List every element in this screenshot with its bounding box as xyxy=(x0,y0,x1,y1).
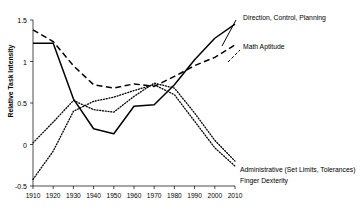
y-tick-label: 0.5 xyxy=(0,100,27,107)
y-tick-label: 1.5 xyxy=(0,17,27,24)
chart-series-layer xyxy=(33,24,235,179)
y-axis-label: Relative Task Intensity xyxy=(7,46,14,118)
series-annotation-math-aptitude: Math Aptitude xyxy=(243,43,285,50)
series-line-direction-control-planning xyxy=(33,24,235,134)
x-tick-label: 1970 xyxy=(147,192,162,199)
series-annotation-finger-dexterity: Finger Dexterity xyxy=(240,177,288,184)
chart-axes xyxy=(30,20,235,189)
y-tick-label: -0.5 xyxy=(0,183,27,190)
x-tick-label: 2010 xyxy=(228,192,243,199)
y-tick-label: 0 xyxy=(0,141,27,148)
x-tick-label: 1910 xyxy=(26,192,41,199)
x-tick-label: 1940 xyxy=(86,192,101,199)
series-line-administrative-set-limits-tolerances xyxy=(33,83,235,161)
leader-line-math xyxy=(228,50,240,62)
leader-line-direction xyxy=(222,20,236,46)
series-line-finger-dexterity xyxy=(33,85,235,180)
series-annotation-direction-control-planning: Direction, Control, Planning xyxy=(243,14,326,21)
y-axis-ticks xyxy=(30,20,33,186)
x-tick-label: 1950 xyxy=(106,192,121,199)
x-tick-label: 1960 xyxy=(127,192,142,199)
chart-root: Relative Task Intensity 1.510.50-0.5 191… xyxy=(0,0,360,214)
x-tick-label: 1920 xyxy=(46,192,61,199)
y-tick-label: 1 xyxy=(0,58,27,65)
chart-canvas xyxy=(0,0,360,214)
x-axis-ticks xyxy=(33,186,235,189)
x-tick-label: 1930 xyxy=(66,192,81,199)
series-annotation-administrative: Administrative (Set Limits, Tolerances) xyxy=(240,166,355,173)
x-tick-label: 2000 xyxy=(207,192,222,199)
x-tick-label: 1980 xyxy=(167,192,182,199)
x-tick-label: 1990 xyxy=(187,192,202,199)
series-line-math-aptitude xyxy=(33,30,235,88)
